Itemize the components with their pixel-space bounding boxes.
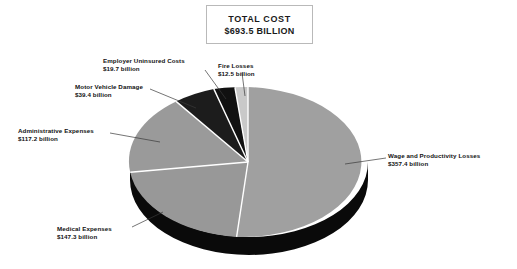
total-cost-box: TOTAL COST $693.5 BILLION (206, 5, 313, 44)
total-cost-heading: TOTAL COST (228, 14, 291, 24)
pie-slice-medical (130, 162, 248, 237)
label-medical-name: Medical Expenses (57, 225, 112, 232)
label-administrative-expenses: Administrative Expenses $117.2 billion (18, 127, 94, 144)
label-motor-value: $39.4 billion (75, 91, 143, 99)
label-wage-name: Wage and Productivity Losses (388, 152, 480, 159)
label-motor-vehicle-damage: Motor Vehicle Damage $39.4 billion (75, 83, 143, 100)
label-employer-value: $19.7 billion (103, 65, 185, 73)
label-admin-name: Administrative Expenses (18, 127, 94, 134)
label-medical-value: $147.3 billion (57, 233, 112, 241)
chart-canvas: TOTAL COST $693.5 BILLION Employer Unins… (0, 0, 517, 269)
label-employer-uninsured-costs: Employer Uninsured Costs $19.7 billion (103, 57, 185, 74)
label-admin-value: $117.2 billion (18, 135, 94, 143)
label-wage-value: $357.4 billion (388, 160, 480, 168)
total-cost-amount: $693.5 BILLION (224, 26, 294, 36)
label-fire-name: Fire Losses (218, 62, 254, 69)
label-motor-name: Motor Vehicle Damage (75, 83, 143, 90)
label-employer-name: Employer Uninsured Costs (103, 57, 185, 64)
label-fire-value: $12.5 billion (218, 70, 255, 78)
label-medical-expenses: Medical Expenses $147.3 billion (57, 225, 112, 242)
label-wage-productivity-losses: Wage and Productivity Losses $357.4 bill… (388, 152, 480, 169)
label-fire-losses: Fire Losses $12.5 billion (218, 62, 255, 79)
